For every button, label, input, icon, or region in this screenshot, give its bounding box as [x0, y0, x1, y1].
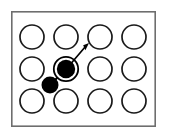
site-r3c2	[54, 89, 78, 113]
small-particle	[42, 77, 59, 94]
site-r2c3	[88, 57, 112, 81]
site-r1c2	[54, 25, 78, 49]
site-r1c1	[20, 25, 44, 49]
diagram-root	[0, 0, 169, 140]
site-r2c1	[20, 57, 44, 81]
site-r1c3	[88, 25, 112, 49]
site-r3c4	[122, 89, 146, 113]
site-r3c1	[20, 89, 44, 113]
site-r3c3	[88, 89, 112, 113]
site-r2c4	[122, 57, 146, 81]
lattice-hopping-diagram	[0, 0, 169, 140]
site-r1c4	[122, 25, 146, 49]
